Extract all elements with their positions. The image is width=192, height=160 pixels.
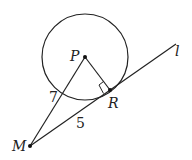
point-M <box>28 144 32 148</box>
length-PM: 7 <box>49 89 58 105</box>
segment-PR <box>85 57 110 90</box>
label-line-l: l <box>175 43 179 59</box>
point-P <box>83 55 87 59</box>
diagram-canvas: P R M l 7 5 <box>0 0 192 160</box>
label-R: R <box>107 95 119 111</box>
point-R <box>108 88 112 92</box>
right-angle-marker <box>99 82 104 94</box>
geometry-diagram: P R M l 7 5 <box>0 0 192 160</box>
label-P: P <box>69 48 80 64</box>
label-M: M <box>11 138 27 154</box>
length-MR: 5 <box>76 115 85 131</box>
